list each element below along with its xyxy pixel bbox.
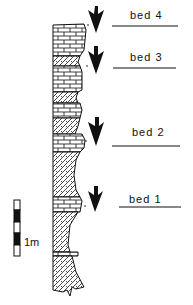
figure-svg: bed 4 bed 3 bed 2 bed 1 1m (0, 0, 193, 305)
arrows (84, 6, 104, 212)
bed-2-label: bed 2 (132, 126, 165, 138)
marl-layer (53, 212, 78, 252)
limestone-layer (53, 134, 85, 152)
marl-layer (53, 256, 84, 296)
limestone-layer (53, 103, 82, 118)
arrow-bed4-icon (88, 6, 104, 33)
bed-1-label: bed 1 (129, 193, 162, 205)
arrow-bed2-icon (88, 117, 104, 146)
marl-layer (53, 56, 80, 66)
arrow-bed1-icon (88, 186, 103, 212)
arrow-bed3-icon (88, 46, 104, 74)
limestone-layer (53, 197, 82, 212)
marl-layer (53, 118, 80, 134)
marl-layer (53, 92, 78, 103)
limestone-layer (53, 24, 86, 56)
stratigraphic-column-figure: bed 4 bed 3 bed 2 bed 1 1m (0, 0, 193, 305)
bed-labels: bed 4 bed 3 bed 2 bed 1 (112, 9, 181, 207)
limestone-layer (53, 66, 82, 92)
column (53, 24, 86, 296)
scale-bar: 1m (14, 200, 39, 256)
bed-3-label: bed 3 (130, 51, 163, 63)
bed-4-label: bed 4 (130, 9, 163, 21)
scale-label: 1m (24, 236, 39, 248)
marl-layer (53, 152, 80, 197)
limestone-layer (53, 252, 78, 256)
